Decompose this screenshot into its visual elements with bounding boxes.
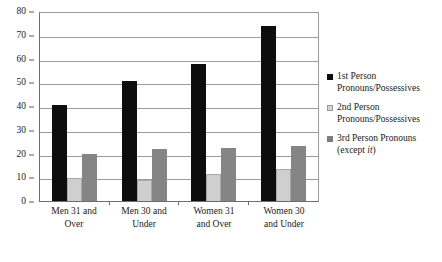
bar[interactable] bbox=[261, 26, 276, 201]
x-axis-category-label-line: Over bbox=[40, 218, 108, 231]
x-axis-category-label: Men 31 andOver bbox=[39, 205, 109, 230]
x-axis-category-label-line: Men 31 and bbox=[40, 205, 108, 218]
x-axis-category-label-line: Under bbox=[110, 218, 178, 231]
bars-layer bbox=[40, 13, 318, 201]
y-axis-tick-label: 10 bbox=[17, 174, 27, 184]
bar[interactable] bbox=[67, 178, 82, 202]
y-axis-tick-label: 30 bbox=[17, 126, 27, 136]
legend-label: 1st PersonPronouns/Possessives bbox=[337, 70, 420, 94]
legend-swatch-icon bbox=[327, 136, 333, 142]
bar[interactable] bbox=[82, 154, 97, 201]
y-axis-tick-label: 40 bbox=[17, 102, 27, 112]
y-axis-tick-mark bbox=[29, 178, 34, 179]
x-axis-category-label: Women 31and Over bbox=[179, 205, 249, 230]
y-axis-tick-label: 60 bbox=[17, 55, 27, 65]
bar[interactable] bbox=[122, 81, 137, 201]
legend-label: 2nd PersonPronouns/Possessives bbox=[337, 101, 420, 125]
y-axis-tick-mark bbox=[29, 130, 34, 131]
y-axis-tick-mark bbox=[29, 154, 34, 155]
bar[interactable] bbox=[137, 180, 152, 201]
x-axis-category-label-line: Women 30 bbox=[250, 205, 318, 218]
bar-group bbox=[179, 13, 249, 201]
bar-chart: 01020304050607080 Men 31 andOverMen 30 a… bbox=[0, 0, 442, 262]
legend-label-line: 3rd Person Pronouns bbox=[337, 132, 416, 144]
legend-label-line: (except it) bbox=[337, 144, 416, 156]
x-axis-category-label: Men 30 andUnder bbox=[109, 205, 179, 230]
legend-label-text-end: ) bbox=[373, 145, 376, 155]
bar[interactable] bbox=[276, 169, 291, 201]
y-axis-tick-label: 80 bbox=[17, 7, 27, 17]
bar[interactable] bbox=[291, 146, 306, 201]
x-axis-category-label-line: and Under bbox=[250, 218, 318, 231]
y-axis-tick-mark bbox=[29, 202, 34, 203]
y-axis-tick-label: 70 bbox=[17, 31, 27, 41]
chart-legend: 1st PersonPronouns/Possessives2nd Person… bbox=[327, 70, 439, 163]
bar-group bbox=[249, 13, 319, 201]
bar[interactable] bbox=[52, 105, 67, 201]
bar[interactable] bbox=[191, 64, 206, 201]
y-axis: 01020304050607080 bbox=[0, 12, 34, 202]
legend-label-line: 1st Person bbox=[337, 70, 420, 82]
bar[interactable] bbox=[206, 174, 221, 201]
plot-area bbox=[39, 12, 319, 202]
y-axis-tick-label: 20 bbox=[17, 150, 27, 160]
legend-item[interactable]: 3rd Person Pronouns(except it) bbox=[327, 132, 439, 156]
x-axis-labels: Men 31 andOverMen 30 andUnderWomen 31and… bbox=[39, 205, 319, 230]
x-axis-category-label-line: Women 31 bbox=[180, 205, 248, 218]
bar-group bbox=[110, 13, 180, 201]
y-axis-tick-mark bbox=[29, 59, 34, 60]
y-axis-tick-mark bbox=[29, 83, 34, 84]
legend-swatch-icon bbox=[327, 74, 333, 80]
y-axis-tick-mark bbox=[29, 107, 34, 108]
legend-label: 3rd Person Pronouns(except it) bbox=[337, 132, 416, 156]
x-axis-category-label-line: Men 30 and bbox=[110, 205, 178, 218]
y-axis-tick-label: 50 bbox=[17, 79, 27, 89]
y-axis-tick-label: 0 bbox=[21, 197, 26, 207]
x-axis-category-label: Women 30and Under bbox=[249, 205, 319, 230]
legend-label-text: (except bbox=[337, 145, 367, 155]
legend-label-line: 2nd Person bbox=[337, 101, 420, 113]
legend-item[interactable]: 1st PersonPronouns/Possessives bbox=[327, 70, 439, 94]
legend-item[interactable]: 2nd PersonPronouns/Possessives bbox=[327, 101, 439, 125]
legend-swatch-icon bbox=[327, 105, 333, 111]
legend-label-line: Pronouns/Possessives bbox=[337, 82, 420, 94]
bar-group bbox=[40, 13, 110, 201]
bar[interactable] bbox=[152, 149, 167, 201]
y-axis-tick-mark bbox=[29, 35, 34, 36]
legend-label-line: Pronouns/Possessives bbox=[337, 113, 420, 125]
y-axis-tick-mark bbox=[29, 12, 34, 13]
bar[interactable] bbox=[221, 148, 236, 201]
x-axis-category-label-line: and Over bbox=[180, 218, 248, 231]
